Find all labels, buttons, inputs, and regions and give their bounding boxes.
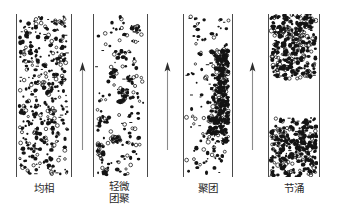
column-tube-slugging	[268, 14, 320, 177]
gas-flow-arrow-icon	[163, 62, 172, 150]
particle-bed-uniform	[17, 14, 71, 177]
panel-caption-cluster: 聚团	[183, 183, 233, 195]
column-tube-cluster	[183, 14, 233, 177]
particle-bed-cluster	[184, 14, 232, 177]
column-tube-slight-agglomeration	[93, 14, 148, 177]
fluidization-regime-figure: 均相 轻微 团聚 聚团 节涌	[0, 0, 357, 215]
panel-caption-slight-agglomeration: 轻微 团聚	[90, 181, 148, 204]
panel-caption-slugging: 节涌	[266, 183, 322, 195]
particle-bed-slugging	[269, 14, 319, 177]
panel-caption-uniform: 均相	[16, 183, 72, 195]
gas-flow-arrow-icon	[248, 62, 257, 150]
gas-flow-arrow-icon	[78, 62, 87, 150]
column-tube-uniform	[16, 14, 72, 177]
particle-bed-slight-agglomeration	[94, 14, 147, 177]
